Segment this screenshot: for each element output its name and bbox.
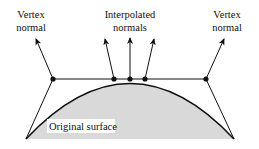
surface-normal-diagram: Vertex normal Interpolated normals Verte…: [0, 0, 259, 149]
vertex-normal-left-label-2: normal: [16, 22, 46, 33]
surface-label: Original surface: [49, 121, 117, 132]
vertex-point-left: [50, 76, 55, 81]
interpolated-normals-label-1: Interpolated: [105, 9, 156, 20]
vertex-point-right: [203, 76, 208, 81]
vertex-normal-right-label-2: normal: [212, 22, 242, 33]
interpolated-point-1: [111, 76, 116, 81]
interpolated-normals-label-2: normals: [113, 22, 147, 33]
interpolated-normal-arrow-3: [145, 39, 154, 79]
vertex-normal-left-arrow: [36, 39, 53, 79]
interpolated-point-2: [127, 76, 132, 81]
interpolated-normal-arrow-1: [105, 39, 114, 79]
vertex-normal-right-arrow: [206, 39, 224, 79]
interpolated-point-3: [142, 76, 147, 81]
vertex-normal-right-label-1: Vertex: [213, 9, 241, 20]
vertex-normal-left-label-1: Vertex: [17, 9, 45, 20]
